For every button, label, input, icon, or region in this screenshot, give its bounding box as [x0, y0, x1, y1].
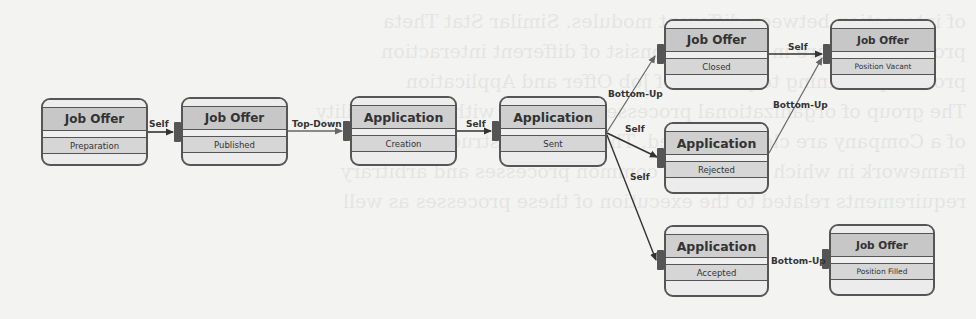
- edge-label-n2-n3: Top-Down: [292, 119, 342, 129]
- node-entity: Application: [666, 132, 767, 155]
- state-node-job-offer-preparation[interactable]: Job Offer Preparation: [41, 98, 148, 166]
- state-node-job-offer-position-filled[interactable]: Job Offer Position Filled: [829, 224, 935, 296]
- state-node-job-offer-position-vacant[interactable]: Job Offer Position Vacant: [830, 19, 936, 90]
- edge-label-n5-n6: Self: [788, 42, 808, 52]
- input-port: [343, 121, 350, 141]
- node-state: Sent: [501, 136, 605, 152]
- node-state: Position Filled: [831, 264, 933, 280]
- input-port: [657, 250, 664, 270]
- edge-label-n4-n7: Self: [625, 124, 645, 134]
- node-entity: Application: [666, 235, 767, 258]
- node-entity: Job Offer: [831, 234, 933, 257]
- input-port: [823, 44, 830, 64]
- node-entity: Job Offer: [666, 29, 767, 52]
- node-state: Position Vacant: [832, 59, 934, 75]
- state-node-application-sent[interactable]: Application Sent: [499, 96, 607, 167]
- input-port: [174, 122, 181, 142]
- node-state: Rejected: [666, 162, 767, 178]
- edge-label-n3-n4: Self: [466, 119, 486, 129]
- node-state: Creation: [352, 136, 455, 152]
- state-node-job-offer-published[interactable]: Job Offer Published: [181, 97, 288, 166]
- node-entity: Job Offer: [832, 29, 934, 52]
- node-entity: Application: [501, 106, 605, 129]
- edge-label-n4-n5: Bottom-Up: [608, 89, 663, 99]
- state-node-application-creation[interactable]: Application Creation: [350, 96, 457, 166]
- node-entity: Job Offer: [43, 108, 146, 131]
- input-port: [657, 44, 664, 64]
- node-state: Preparation: [43, 138, 146, 154]
- node-state: Published: [183, 137, 286, 153]
- state-node-application-rejected[interactable]: Application Rejected: [664, 122, 769, 194]
- node-state: Closed: [666, 59, 767, 75]
- input-port: [657, 148, 664, 168]
- node-entity: Job Offer: [183, 107, 286, 130]
- edge-label-n7-n6: Bottom-Up: [773, 100, 828, 110]
- node-state: Accepted: [666, 265, 767, 281]
- node-entity: Application: [352, 106, 455, 129]
- edge-label-n1-n2: Self: [149, 119, 169, 129]
- edge-label-n4-n8: Self: [630, 172, 650, 182]
- state-node-job-offer-closed[interactable]: Job Offer Closed: [664, 19, 769, 90]
- input-port: [492, 121, 499, 141]
- edge-label-n8-n9: Bottom-Up: [771, 256, 826, 266]
- state-node-application-accepted[interactable]: Application Accepted: [664, 225, 769, 297]
